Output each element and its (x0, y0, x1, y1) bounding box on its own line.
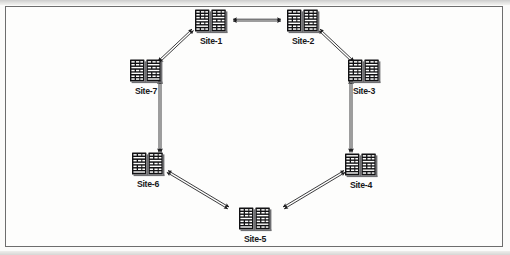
node-site-4[interactable]: Site-4 (329, 152, 393, 190)
node-site-3[interactable]: Site-3 (332, 58, 396, 96)
server-rack-pair-icon (286, 8, 320, 34)
node-label: Site-7 (117, 85, 176, 96)
server-rack-pair-icon (194, 8, 228, 34)
scan-artifact-top-band (0, 0, 510, 5)
server-rack-pair-icon (344, 152, 378, 178)
node-label: Site-1 (182, 35, 241, 46)
node-site-1[interactable]: Site-1 (179, 8, 243, 46)
node-site-5[interactable]: Site-5 (223, 206, 287, 244)
node-label: Site-2 (274, 35, 333, 46)
node-label: Site-4 (332, 179, 391, 190)
scan-artifact-bottom-band (0, 251, 510, 255)
scanned-page: Site-1 (0, 0, 510, 255)
node-label: Site-6 (119, 178, 178, 189)
server-rack-pair-icon (129, 58, 163, 84)
node-site-2[interactable]: Site-2 (271, 8, 335, 46)
server-rack-pair-icon (347, 58, 381, 84)
node-site-7[interactable]: Site-7 (114, 58, 178, 96)
server-rack-pair-icon (131, 151, 165, 177)
node-label: Site-3 (335, 85, 394, 96)
node-site-6[interactable]: Site-6 (116, 151, 180, 189)
node-label: Site-5 (226, 233, 285, 244)
server-rack-pair-icon (238, 206, 272, 232)
